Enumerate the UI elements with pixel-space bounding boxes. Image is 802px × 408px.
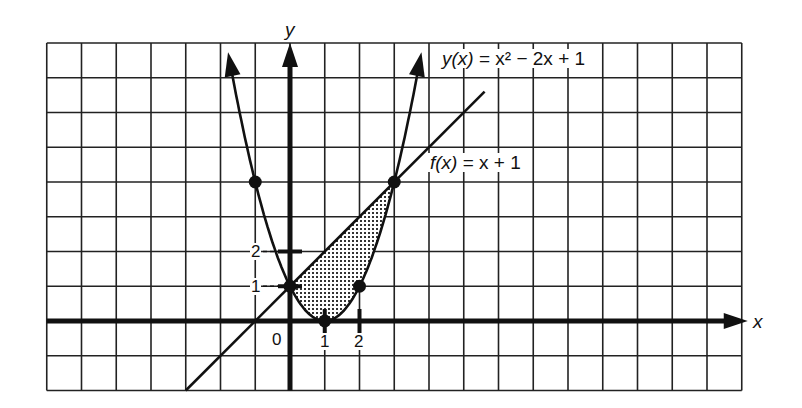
line-f-curve — [186, 92, 485, 391]
line-equation-label: f(x) = x + 1 — [427, 153, 524, 172]
parabola-equation-label: y(x) = x² − 2x + 1 — [439, 49, 588, 68]
graph-canvas — [0, 0, 802, 408]
line-eq-lhs: f(x) — [430, 152, 457, 173]
line-eq-rhs: = x + 1 — [457, 152, 520, 173]
origin-label: 0 — [271, 331, 282, 348]
parabola-eq-lhs: y(x) — [442, 48, 474, 69]
x-axis-label: x — [753, 312, 763, 331]
y-axis-label: y — [285, 20, 295, 39]
x-tick-label-2: 2 — [353, 333, 364, 350]
y-tick-label-2: 2 — [250, 243, 261, 260]
axes — [47, 53, 734, 391]
grid — [47, 43, 742, 391]
x-tick-label-1: 1 — [319, 333, 330, 350]
y-tick-label-1: 1 — [250, 278, 261, 295]
parabola-eq-rhs: = x² − 2x + 1 — [474, 48, 585, 69]
